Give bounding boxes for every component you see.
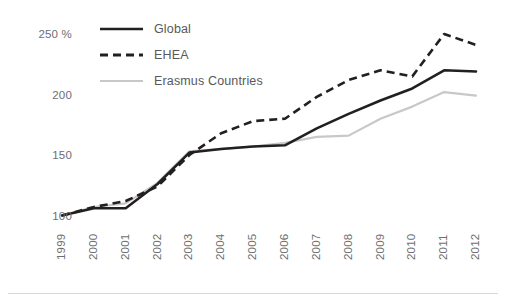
x-tick-2010: 2010 xyxy=(405,234,417,260)
chart-legend: Global EHEA Erasmus Countries xyxy=(100,17,263,95)
x-tick-2002: 2002 xyxy=(151,234,163,260)
solid-gray-line-icon xyxy=(100,75,143,87)
y-tick-100: 100 xyxy=(26,210,72,222)
x-tick-1999: 1999 xyxy=(55,234,67,260)
legend-label-erasmus-countries: Erasmus Countries xyxy=(154,74,263,88)
legend-label-global: Global xyxy=(154,22,191,36)
dashed-dark-line-icon xyxy=(100,49,143,61)
x-tick-2008: 2008 xyxy=(342,234,354,260)
x-tick-2000: 2000 xyxy=(87,234,99,260)
y-tick-250: 250 % xyxy=(26,28,72,40)
legend-item-global: Global xyxy=(100,17,263,41)
y-tick-150: 150 xyxy=(26,149,72,161)
y-tick-200: 200 xyxy=(26,89,72,101)
x-tick-2005: 2005 xyxy=(246,234,258,260)
x-tick-2006: 2006 xyxy=(278,234,290,260)
legend-label-ehea: EHEA xyxy=(154,48,189,62)
x-tick-2009: 2009 xyxy=(374,234,386,260)
x-tick-2007: 2007 xyxy=(310,234,322,260)
solid-dark-line-icon xyxy=(100,23,143,35)
legend-item-ehea: EHEA xyxy=(100,43,263,67)
x-tick-2012: 2012 xyxy=(469,234,481,260)
legend-item-erasmus-countries: Erasmus Countries xyxy=(100,69,263,93)
x-tick-2003: 2003 xyxy=(182,234,194,260)
bottom-divider xyxy=(8,293,498,294)
x-tick-2004: 2004 xyxy=(214,234,226,260)
series-line-erasmus-countries xyxy=(62,92,476,215)
line-chart: 100150200250 % 1999200020012002200320042… xyxy=(0,0,506,305)
x-tick-2001: 2001 xyxy=(119,234,131,260)
x-tick-2011: 2011 xyxy=(437,234,449,260)
